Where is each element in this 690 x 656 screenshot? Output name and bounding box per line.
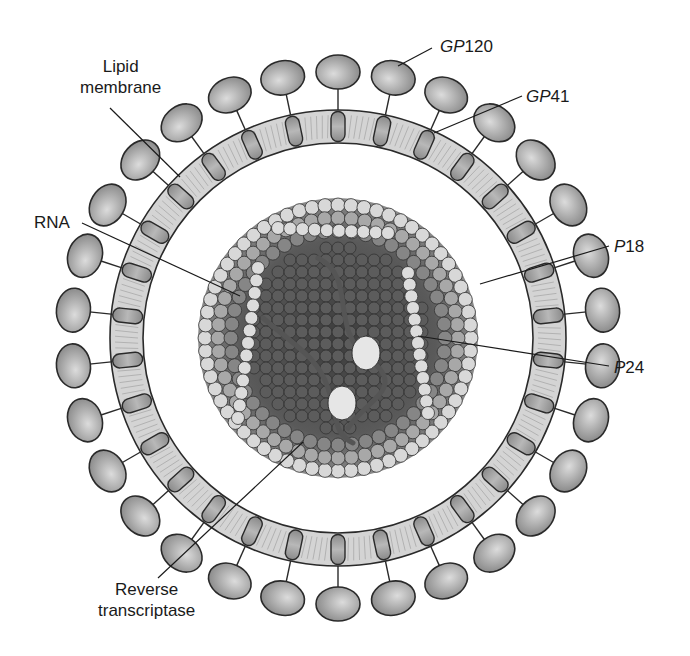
capsid-sphere [380,350,392,362]
p18-matrix-sphere [359,434,373,448]
p18-matrix-sphere [214,358,228,372]
gp120-stalk [431,110,440,130]
gp120-knob [82,443,133,498]
p24-capsid-sphere [296,223,309,236]
p24-capsid-sphere [382,227,395,240]
capsid-sphere [284,362,296,374]
p24-capsid-sphere [238,362,251,375]
p18-matrix-sphere [458,292,472,306]
gp120-knob [316,55,360,89]
capsid-sphere [296,374,308,386]
gp41-rod [112,352,143,369]
p24-capsid-sphere [407,302,420,315]
capsid-sphere [272,398,284,410]
p18-matrix-sphere [201,357,215,371]
p18-matrix-sphere [357,461,371,475]
capsid-sphere [392,290,404,302]
label-gp41-prefix: GP [526,87,551,106]
p18-matrix-sphere [344,212,358,226]
capsid-sphere [380,338,392,350]
capsid-sphere [272,350,284,362]
p24-capsid-sphere [408,313,421,326]
p18-matrix-sphere [331,211,345,225]
p18-matrix-sphere [371,444,385,458]
p24-capsid-sphere [247,299,260,312]
hiv-virion-diagram: Lipid membrane GP120 GP41 RNA P18 P24 Re… [0,0,690,656]
p24-capsid-sphere [403,278,416,291]
capsid-sphere [356,386,368,398]
p24-capsid-sphere [240,349,253,362]
gp120-knob [419,557,473,606]
capsid-sphere [320,326,332,338]
gp120-stalk [286,561,291,583]
capsid-sphere [272,266,284,278]
gp120-knob [508,132,563,187]
capsid-sphere [260,326,272,338]
p18-matrix-sphere [458,370,472,384]
capsid-sphere [356,302,368,314]
capsid-sphere [404,386,416,398]
p24-capsid-sphere [237,374,250,387]
capsid-sphere [320,338,332,350]
p18-matrix-sphere [448,358,462,372]
reverse-transcriptase [352,336,380,370]
p18-matrix-sphere [385,424,399,438]
p24-capsid-sphere [243,324,256,337]
gp120-knob [154,96,210,149]
p24-capsid-sphere [235,387,248,400]
capsid-sphere [392,302,404,314]
capsid-sphere [284,374,296,386]
gp120-stalk [236,546,245,566]
capsid-sphere [284,290,296,302]
capsid-sphere [260,374,272,386]
p18-matrix-sphere [280,208,294,222]
p18-matrix-sphere [214,304,228,318]
capsid-sphere [356,278,368,290]
p18-matrix-sphere [344,450,358,464]
p18-matrix-sphere [444,291,458,305]
p18-matrix-sphere [424,278,438,292]
p24-capsid-sphere [245,312,258,325]
capsid-sphere [380,326,392,338]
leader-gp120 [398,48,432,66]
capsid-sphere [368,302,380,314]
p24-capsid-sphere [320,224,333,237]
label-gp41-number: 41 [551,87,570,106]
capsid-sphere [392,374,404,386]
capsid-sphere [380,398,392,410]
capsid-sphere [380,266,392,278]
capsid-sphere [308,398,320,410]
capsid-sphere [392,326,404,338]
capsid-sphere [260,350,272,362]
p18-matrix-sphere [305,201,319,215]
p18-matrix-sphere [212,344,226,358]
capsid-sphere [368,374,380,386]
capsid-sphere [380,314,392,326]
gp120-stalk [121,213,140,224]
capsid-sphere [284,254,296,266]
capsid-sphere [308,278,320,290]
gp120-stalk [507,491,523,506]
capsid-sphere [344,374,356,386]
capsid-sphere [380,254,392,266]
p18-matrix-sphere [344,463,358,477]
p18-matrix-sphere [305,461,319,475]
p18-matrix-sphere [211,331,225,345]
capsid-sphere [296,326,308,338]
gp120-stalk [89,312,111,314]
p18-matrix-sphere [434,303,448,317]
p24-capsid-sphere [415,360,428,373]
p24-capsid-sphere [422,407,435,420]
p18-matrix-sphere [383,439,397,453]
p18-matrix-sphere [331,464,345,478]
capsid-sphere [380,278,392,290]
p18-matrix-sphere [464,331,478,345]
label-p18: P18 [614,236,644,257]
p18-matrix-sphere [437,317,451,331]
label-reverse-transcriptase: Reverse transcriptase [98,579,195,621]
p18-matrix-sphere [430,372,444,386]
capsid-sphere [344,242,356,254]
capsid-sphere [332,326,344,338]
gp120-knob [467,527,523,580]
p18-matrix-sphere [358,448,372,462]
